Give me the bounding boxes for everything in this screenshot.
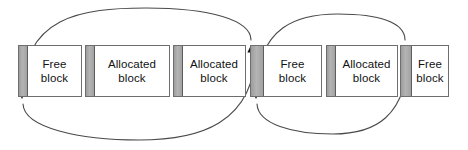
block-label: Allocated block	[189, 57, 239, 85]
block-body: Allocated block	[336, 46, 397, 96]
block-body: Allocated block	[183, 46, 245, 96]
memory-block: Free block	[400, 45, 449, 97]
memory-block: Free block	[18, 45, 82, 97]
block-body: Free block	[28, 46, 81, 96]
memory-block: Free block	[250, 45, 322, 97]
block-body: Free block	[264, 46, 321, 96]
block-label: Free block	[278, 57, 307, 85]
block-header-strip	[174, 46, 183, 96]
memory-block: Allocated block	[173, 45, 246, 97]
memory-block: Allocated block	[85, 45, 170, 97]
memory-block: Allocated block	[326, 45, 398, 97]
block-header-strip	[327, 46, 336, 96]
block-body: Allocated block	[95, 46, 169, 96]
block-header-strip	[19, 46, 28, 96]
block-label: Allocated block	[107, 57, 157, 85]
block-label: Allocated block	[341, 57, 391, 85]
block-header-strip	[401, 46, 412, 96]
block-label: Free block	[415, 57, 444, 85]
block-header-strip	[251, 46, 264, 96]
block-header-strip	[86, 46, 95, 96]
block-label: Free block	[40, 57, 69, 85]
block-body: Free block	[412, 46, 448, 96]
memory-blocks-layer: Free blockAllocated blockAllocated block…	[0, 0, 468, 150]
memory-block-linked-list-diagram: Free blockAllocated blockAllocated block…	[0, 0, 468, 150]
